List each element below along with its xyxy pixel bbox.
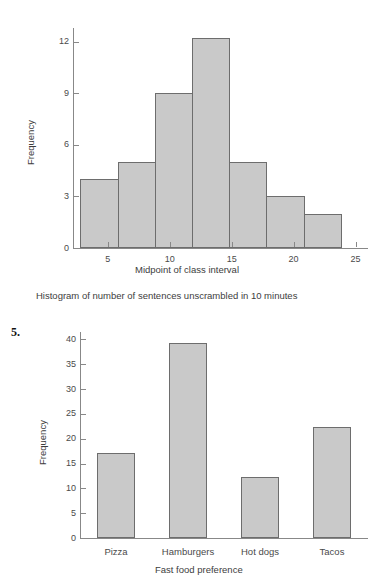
histogram-x-tick-label: 15	[220, 255, 244, 264]
histogram-y-tick	[74, 42, 79, 43]
histogram-y-tick	[74, 145, 79, 146]
histogram-caption: Histogram of number of sentences unscram…	[36, 291, 297, 301]
bar-chart-category-label: Hot dogs	[224, 547, 296, 557]
histogram-x-tick	[108, 242, 109, 247]
histogram-x-tick-label: 10	[158, 255, 182, 264]
histogram-y-tick	[74, 196, 79, 197]
histogram-y-axis-line	[73, 28, 74, 248]
histogram-x-tick	[356, 242, 357, 247]
histogram-y-axis-title: Frequency	[26, 120, 36, 165]
bar-chart-figure: 0510152025303540 Frequency Fast food pre…	[0, 310, 388, 585]
histogram-x-tick	[232, 242, 233, 247]
histogram-y-tick-label: 0	[47, 244, 69, 253]
histogram-y-tick	[74, 248, 79, 249]
bar-chart-category-label: Hamburgers	[152, 547, 224, 557]
histogram-y-tick-label: 3	[47, 192, 69, 201]
histogram-figure: 036912510152025 Frequency Midpoint of cl…	[0, 0, 388, 300]
histogram-x-tick	[170, 242, 171, 247]
histogram-x-tick-label: 25	[344, 255, 368, 264]
page-root: 036912510152025 Frequency Midpoint of cl…	[0, 0, 388, 585]
histogram-axes: 036912510152025	[0, 0, 388, 300]
histogram-x-axis-title: Midpoint of class interval	[135, 265, 239, 275]
histogram-x-tick-label: 20	[282, 255, 306, 264]
histogram-y-tick	[74, 93, 79, 94]
histogram-x-tick	[294, 242, 295, 247]
histogram-y-tick-label: 12	[47, 37, 69, 46]
bar-chart-category-label: Tacos	[296, 547, 368, 557]
bar-chart-category-label: Pizza	[80, 547, 152, 557]
histogram-y-tick-label: 9	[47, 89, 69, 98]
histogram-x-axis-line	[73, 248, 368, 249]
histogram-y-tick-label: 6	[47, 140, 69, 149]
bar-chart-category-labels: PizzaHamburgersHot dogsTacos	[0, 310, 388, 585]
histogram-x-tick-label: 5	[96, 255, 120, 264]
